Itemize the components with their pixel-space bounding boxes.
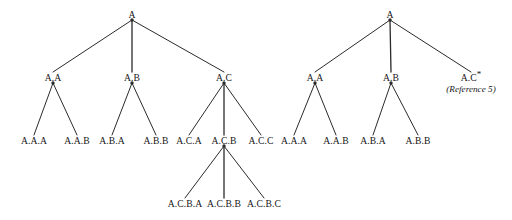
tree-edge (132, 20, 224, 72)
tree-node-label-a-b: A.B (383, 72, 399, 83)
tree-node-label-a-c-c: A.C.C (248, 135, 273, 146)
tree-edge (224, 146, 264, 198)
tree-node-label-a-a: A.A (307, 72, 324, 83)
tree-node-label-a-a-a: A.A.A (21, 135, 47, 146)
tree-edge (294, 83, 315, 135)
tree-edge (34, 83, 53, 135)
tree-edge (189, 83, 224, 135)
tree-node-label-a: A (386, 9, 393, 20)
tree-edge (132, 83, 156, 135)
tree-edge (53, 20, 132, 72)
tree-edges-layer (0, 0, 512, 220)
tree-node-label-a-b-a: A.B.A (360, 135, 386, 146)
tree-node-label-a-c: A.C* (461, 72, 482, 83)
tree-edge (53, 83, 77, 135)
tree-node-label-a-b: A.B (124, 72, 140, 83)
tree-node-label-a-c-b-c: A.C.B.C (247, 198, 281, 209)
tree-edge (224, 83, 261, 135)
tree-node-label-a-c-b-a: A.C.B.A (168, 198, 203, 209)
tree-node-label-a-c-b-b: A.C.B.B (207, 198, 241, 209)
tree-edge (315, 83, 336, 135)
tree-edge (373, 83, 391, 135)
tree-node-label-a-a-b: A.A.B (64, 135, 90, 146)
tree-node-label-a-c: A.C (216, 72, 232, 83)
tree-node-label-a-b-b: A.B.B (405, 135, 430, 146)
tree-node-label-a-a-a: A.A.A (281, 135, 307, 146)
tree-node-label-a-a: A.A (45, 72, 62, 83)
tree-node-label-a: A (128, 9, 135, 20)
tree-node-label-a-b-b: A.B.B (143, 135, 168, 146)
tree-edge (391, 83, 418, 135)
tree-node-label-a-a-b: A.A.B (323, 135, 349, 146)
tree-edge (112, 83, 132, 135)
tree-edge (390, 20, 391, 72)
tree-edge (185, 146, 224, 198)
tree-node-label-a-c-b: A.C.B (211, 135, 236, 146)
tree-edge (315, 20, 390, 72)
reference-asterisk-icon: * (477, 69, 482, 79)
tree-node-annotation: (Reference 5) (446, 84, 495, 95)
tree-diagram-figure: AA.AA.BA.CA.A.AA.A.BA.B.AA.B.BA.C.AA.C.B… (0, 0, 512, 220)
tree-edge (390, 20, 471, 72)
tree-node-label-a-c-a: A.C.A (176, 135, 202, 146)
tree-node-label-a-b-a: A.B.A (99, 135, 125, 146)
